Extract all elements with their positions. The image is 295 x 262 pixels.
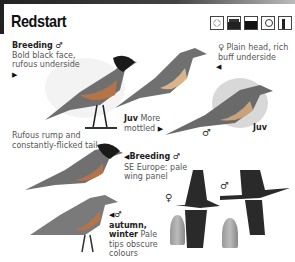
- se-breeding-label: ◀Breeding ♂ SE Europe: pale wing panel: [124, 152, 187, 182]
- left-border: [0, 0, 4, 34]
- female-label: ♀ Plain head, rich buff underside ◀: [218, 43, 288, 73]
- flight-male-symbol: ♂: [220, 180, 229, 191]
- tree-icon: [261, 16, 275, 30]
- breeding-male-label: Breeding ♂ Bold black face, rufous under…: [12, 41, 80, 80]
- wing-sample-left: [170, 215, 185, 245]
- forest-icon: [278, 16, 292, 30]
- water-icon: [227, 16, 241, 30]
- habitat-icons: [210, 16, 292, 30]
- rump-label: Rufous rump and constantly-flicked tail: [12, 131, 98, 150]
- page-title: Redstart: [11, 12, 66, 32]
- arrow-left-icon: ◀: [216, 63, 221, 71]
- top-border: [0, 0, 295, 4]
- sun-heath-icon: [210, 16, 224, 30]
- autumn-male-label: ◀♂ autumn, winter Pale tips obscure colo…: [109, 210, 158, 259]
- flight-female-symbol: ♀: [165, 192, 172, 203]
- juv-label-1: Juv More mottled ▶: [124, 114, 163, 134]
- arrow-right-icon: ▶: [12, 71, 17, 79]
- arrow-right-icon: ▶: [158, 125, 163, 133]
- juv-label-2: Juv: [253, 123, 267, 133]
- wing-sample-right: [222, 218, 238, 248]
- field-icon: [244, 16, 258, 30]
- breeding-male-heading: Breeding ♂: [12, 41, 63, 50]
- perched-male-symbol: ♂: [202, 127, 211, 138]
